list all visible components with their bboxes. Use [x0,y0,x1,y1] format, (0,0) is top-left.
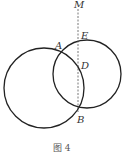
label-D: D [80,60,89,71]
geometry-diagram: M E A D B 图 4 [0,0,124,154]
label-B: B [76,114,84,125]
figure-caption: 图 4 [53,143,71,153]
label-E: E [80,30,89,41]
right-circle [53,40,121,108]
left-circle [4,48,84,128]
label-A: A [54,40,62,51]
label-M: M [73,0,85,10]
